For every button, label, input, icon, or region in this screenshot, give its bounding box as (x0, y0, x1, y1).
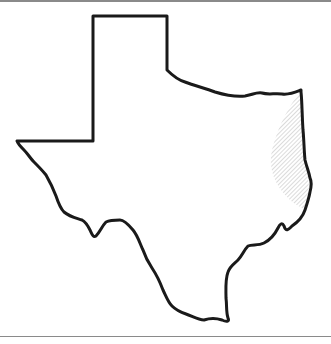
bottom-rule (0, 336, 331, 337)
texas-map (0, 0, 331, 344)
texas-outline (17, 16, 311, 321)
